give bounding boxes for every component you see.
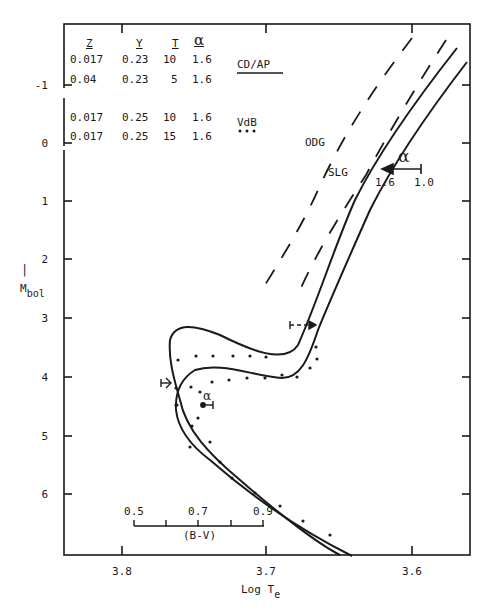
legend-cell: 15 bbox=[163, 131, 176, 142]
legend-cell: 1.6 bbox=[192, 112, 212, 123]
alpha-arrow-label: α bbox=[398, 148, 409, 165]
cdap-track-1 bbox=[170, 48, 457, 555]
bv-scale-label: (B-V) bbox=[183, 530, 216, 541]
legend-cell: 0.25 bbox=[122, 112, 149, 123]
x-tick-label: 3.6 bbox=[392, 566, 432, 577]
y-tick-label: -1 bbox=[28, 80, 48, 91]
bv-tick-label: 0.9 bbox=[243, 506, 283, 517]
y-axis-label: Mbol bbox=[20, 283, 45, 294]
y-tick-label: 2 bbox=[28, 254, 48, 265]
hr-diagram-plot bbox=[0, 0, 492, 610]
legend-cell: 10 bbox=[163, 54, 176, 65]
legend-cell: 0.04 bbox=[70, 74, 97, 85]
legend-header-t: T bbox=[172, 38, 179, 49]
legend-cell: 0.23 bbox=[122, 54, 149, 65]
legend-cell: 1.6 bbox=[192, 54, 212, 65]
legend-cell: 0.23 bbox=[122, 74, 149, 85]
y-tick-label: 1 bbox=[28, 196, 48, 207]
odg-label: ODG bbox=[305, 137, 325, 148]
legend-cell: 0.017 bbox=[70, 112, 103, 123]
alpha-small-label: α bbox=[203, 390, 211, 402]
alpha-arrow-to: 1.6 bbox=[375, 177, 395, 188]
legend-group-cdap: CD/AP bbox=[237, 59, 270, 70]
y-tick-label: 5 bbox=[28, 431, 48, 442]
legend-group-vdb: VdB bbox=[237, 117, 257, 128]
slg-dashed-curve bbox=[300, 40, 446, 290]
legend-cell: 1.6 bbox=[192, 131, 212, 142]
legend-cell: 0.25 bbox=[122, 131, 149, 142]
vdb-legend-dots bbox=[239, 130, 256, 133]
left-marker bbox=[161, 378, 171, 388]
x-axis-label: Log Te bbox=[241, 584, 280, 595]
legend-cell: 1.6 bbox=[192, 74, 212, 85]
y-tick-label: 4 bbox=[28, 372, 48, 383]
alpha-arrow-from: 1.0 bbox=[414, 177, 434, 188]
legend-cell: 10 bbox=[163, 112, 176, 123]
bv-tick-label: 0.5 bbox=[114, 506, 154, 517]
odg-dashed-curve bbox=[262, 38, 412, 290]
bv-tick-label: 0.7 bbox=[178, 506, 218, 517]
legend-cell: 0.017 bbox=[70, 131, 103, 142]
plot-frame bbox=[64, 24, 470, 555]
x-tick-label: 3.8 bbox=[102, 566, 142, 577]
x-tick-label: 3.7 bbox=[246, 566, 286, 577]
slg-label: SLG bbox=[328, 167, 348, 178]
legend-header-z: Z bbox=[86, 38, 93, 49]
bv-scale bbox=[134, 520, 264, 526]
legend-header-alpha: α bbox=[194, 33, 204, 48]
legend-cell: 0.017 bbox=[70, 54, 103, 65]
legend-cell: 5 bbox=[171, 74, 178, 85]
axis-ticks bbox=[64, 24, 470, 555]
y-axis-label-bar: | bbox=[21, 264, 28, 276]
y-tick-label: 3 bbox=[28, 313, 48, 324]
upper-error-bar bbox=[290, 321, 316, 329]
y-tick-label: 6 bbox=[28, 489, 48, 500]
legend-header-y: Y bbox=[136, 38, 143, 49]
y-tick-label: 0 bbox=[28, 138, 48, 149]
